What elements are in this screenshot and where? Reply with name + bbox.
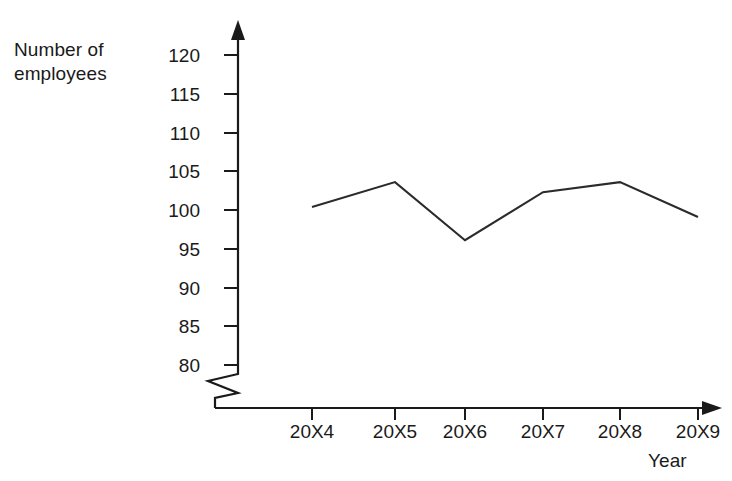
y-axis	[224, 20, 245, 368]
plot-area	[0, 0, 732, 481]
line-chart: Number of employees Year 120 115 110 105…	[0, 0, 732, 481]
y-axis-break-icon	[208, 368, 238, 408]
y-axis-arrow-icon	[231, 20, 245, 40]
x-axis-arrow-icon	[702, 401, 722, 415]
x-axis	[215, 401, 722, 420]
data-series-line	[312, 182, 698, 240]
